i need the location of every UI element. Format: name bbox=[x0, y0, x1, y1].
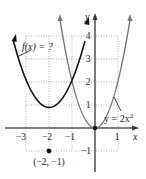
x-tick-label: −3 bbox=[16, 132, 26, 142]
vertex-point bbox=[47, 149, 52, 154]
vertex-label: (−2, −1) bbox=[33, 157, 64, 168]
gray-parabola-arrow-left-icon bbox=[58, 14, 63, 21]
g-label-main: y = 2x bbox=[104, 113, 130, 124]
x-tick-label: −2 bbox=[42, 132, 52, 142]
y-tick-label: −1 bbox=[81, 146, 91, 156]
g-label: y = 2x2 bbox=[104, 112, 134, 124]
y-axis-label: y bbox=[84, 11, 90, 22]
x-axis-label: x bbox=[132, 131, 138, 142]
f-label: f(x) = ? bbox=[22, 41, 53, 53]
g-label-leader bbox=[114, 97, 121, 111]
y-tick-label: 1 bbox=[86, 100, 91, 110]
x-tick-label: −1 bbox=[65, 132, 75, 142]
x-tick-label: 1 bbox=[115, 132, 120, 142]
x-axis-arrow-icon bbox=[132, 126, 139, 131]
gray-parabola-arrow-right-icon bbox=[127, 14, 132, 21]
y-axis-arrow-icon bbox=[93, 13, 98, 20]
y-tick-label: 3 bbox=[86, 54, 91, 64]
black-parabola-arrow-left-icon bbox=[12, 34, 17, 42]
origin-point bbox=[93, 126, 97, 130]
g-label-exponent: 2 bbox=[130, 112, 134, 120]
y-tick-label: 2 bbox=[86, 77, 91, 87]
parabola-figure: x y −3 −2 −1 1 4 3 2 1 −1 f(x) = ? y = 2… bbox=[0, 0, 146, 179]
y-tick-label: 4 bbox=[86, 31, 91, 41]
